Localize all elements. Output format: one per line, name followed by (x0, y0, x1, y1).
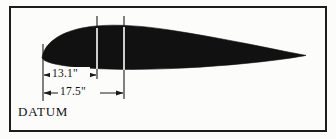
dimension-label-17-5: 17.5" (60, 86, 86, 98)
airfoil-shape (42, 25, 306, 69)
datum-label: DATUM (18, 105, 68, 118)
dimension-label-13-1: 13.1" (52, 68, 78, 80)
dimension-arrow-right-17-5 (116, 90, 124, 95)
dimension-arrow-left-17-5 (44, 90, 52, 95)
dimension-arrow-left-13-1 (44, 72, 52, 77)
dimension-arrow-right-13-1 (89, 72, 97, 77)
figure-page: 13.1" 17.5" DATUM (0, 0, 336, 139)
